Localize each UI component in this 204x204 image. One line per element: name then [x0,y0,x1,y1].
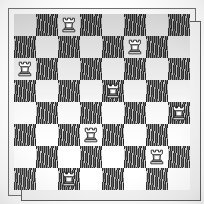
board-square-c7[interactable] [58,36,80,58]
board-square-h2[interactable] [168,146,190,168]
board-square-e8[interactable] [102,14,124,36]
rook-icon[interactable] [126,38,145,57]
board-square-a1[interactable] [14,168,36,190]
board-square-b7[interactable] [36,36,58,58]
rook-icon[interactable] [148,148,167,167]
board-square-d1[interactable] [80,168,102,190]
board-square-e6[interactable] [102,58,124,80]
rook-icon[interactable] [82,126,101,145]
board-square-e5[interactable] [102,80,124,102]
board-square-d4[interactable] [80,102,102,124]
board-square-a7[interactable] [14,36,36,58]
board-square-h3[interactable] [168,124,190,146]
board-square-e1[interactable] [102,168,124,190]
board-square-c4[interactable] [58,102,80,124]
board-square-h6[interactable] [168,58,190,80]
board-square-g8[interactable] [146,14,168,36]
board-square-f8[interactable] [124,14,146,36]
board-square-b8[interactable] [36,14,58,36]
board-square-a5[interactable] [14,80,36,102]
board-square-c1[interactable] [58,168,80,190]
board-square-g2[interactable] [146,146,168,168]
board-square-b3[interactable] [36,124,58,146]
board-square-e2[interactable] [102,146,124,168]
board-square-f2[interactable] [124,146,146,168]
board-square-g4[interactable] [146,102,168,124]
board-square-c2[interactable] [58,146,80,168]
chess-diagram-canvas [0,0,204,204]
board-square-h8[interactable] [168,14,190,36]
board-square-d7[interactable] [80,36,102,58]
board-square-c3[interactable] [58,124,80,146]
board-square-h4[interactable] [168,102,190,124]
board-square-c6[interactable] [58,58,80,80]
board-square-h7[interactable] [168,36,190,58]
board-square-f5[interactable] [124,80,146,102]
rook-icon[interactable] [16,60,35,79]
board-square-f6[interactable] [124,58,146,80]
board-square-g3[interactable] [146,124,168,146]
board-square-c8[interactable] [58,14,80,36]
board-square-h5[interactable] [168,80,190,102]
rook-icon[interactable] [170,104,189,123]
board-square-g5[interactable] [146,80,168,102]
board-square-g6[interactable] [146,58,168,80]
board-square-d6[interactable] [80,58,102,80]
board-square-c5[interactable] [58,80,80,102]
board-square-h1[interactable] [168,168,190,190]
board-square-e3[interactable] [102,124,124,146]
rook-icon[interactable] [104,82,123,101]
board-square-b4[interactable] [36,102,58,124]
board-square-a4[interactable] [14,102,36,124]
board-square-g7[interactable] [146,36,168,58]
chess-board[interactable] [14,14,190,190]
rook-icon[interactable] [60,16,79,35]
board-square-b1[interactable] [36,168,58,190]
board-square-f3[interactable] [124,124,146,146]
board-square-b2[interactable] [36,146,58,168]
board-square-f4[interactable] [124,102,146,124]
board-square-b5[interactable] [36,80,58,102]
board-square-f1[interactable] [124,168,146,190]
board-square-f7[interactable] [124,36,146,58]
board-square-a8[interactable] [14,14,36,36]
board-square-a2[interactable] [14,146,36,168]
board-square-d8[interactable] [80,14,102,36]
board-square-d5[interactable] [80,80,102,102]
board-square-a3[interactable] [14,124,36,146]
board-square-b6[interactable] [36,58,58,80]
rook-icon[interactable] [60,170,79,189]
board-square-e4[interactable] [102,102,124,124]
board-square-e7[interactable] [102,36,124,58]
board-square-d3[interactable] [80,124,102,146]
board-square-g1[interactable] [146,168,168,190]
board-square-d2[interactable] [80,146,102,168]
board-square-a6[interactable] [14,58,36,80]
